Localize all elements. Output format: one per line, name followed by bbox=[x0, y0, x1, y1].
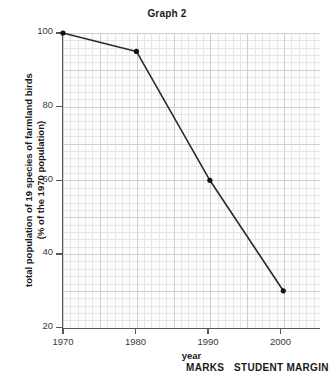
footer-marks-label: MARKS bbox=[186, 362, 224, 373]
y-axis-tick: 40 bbox=[56, 253, 62, 254]
y-axis-line bbox=[62, 33, 63, 329]
y-axis-tick: 100 bbox=[56, 32, 62, 33]
x-axis-tick: 1970 bbox=[62, 328, 63, 334]
x-axis-tick-label: 1970 bbox=[52, 336, 73, 347]
y-axis-tick: 20 bbox=[56, 327, 62, 328]
y-axis-tick: 60 bbox=[56, 180, 62, 181]
footer-student-margin-label: STUDENT MARGIN bbox=[234, 362, 329, 373]
graph-figure: Graph 2 100 80 60 40 20 1970 1980 1990 2… bbox=[0, 0, 334, 378]
plot-area bbox=[63, 33, 320, 328]
footer-bar: MARKS STUDENT MARGIN bbox=[0, 362, 334, 378]
y-axis-tick-label: 100 bbox=[37, 25, 53, 36]
x-axis-tick-label: 1980 bbox=[125, 336, 146, 347]
x-axis-title: year bbox=[63, 350, 320, 361]
y-axis-title-line2: (% of the 1970 population) bbox=[35, 121, 46, 239]
y-axis-title: total population of 19 species of farmla… bbox=[23, 55, 47, 305]
x-axis-tick: 2000 bbox=[280, 328, 281, 334]
y-axis-title-line1: total population of 19 species of farmla… bbox=[23, 73, 34, 287]
y-axis-tick-label: 20 bbox=[42, 320, 53, 331]
x-axis-tick-label: 2000 bbox=[270, 336, 291, 347]
x-axis-tick-label: 1990 bbox=[197, 336, 218, 347]
y-axis-tick: 80 bbox=[56, 106, 62, 107]
x-axis-line bbox=[62, 328, 320, 329]
x-axis-tick: 1980 bbox=[135, 328, 136, 334]
x-axis-tick: 1990 bbox=[207, 328, 208, 334]
chart-title: Graph 2 bbox=[0, 8, 334, 19]
